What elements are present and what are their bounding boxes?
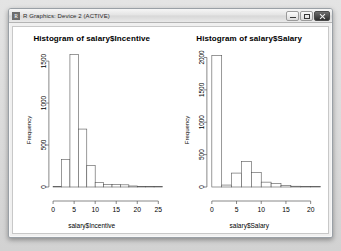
histogram-bar [70, 54, 78, 187]
y-tick-label: 500 [197, 149, 204, 160]
window-titlebar[interactable]: R R Graphics: Device 2 (ACTIVE) [9, 9, 332, 23]
maximize-button[interactable] [300, 11, 313, 21]
screen: R R Graphics: Device 2 (ACTIVE) Histogra… [0, 0, 341, 251]
histogram-bar [221, 185, 231, 187]
y-tick-label: 500 [40, 139, 47, 150]
r-logo-icon: R [12, 12, 20, 20]
histogram-bar [290, 186, 300, 187]
y-tick-label: 1000 [40, 95, 47, 110]
r-graphics-window: R R Graphics: Device 2 (ACTIVE) Histogra… [8, 8, 333, 238]
histogram-bar [112, 185, 120, 187]
x-tick-label: 10 [91, 206, 99, 213]
histogram-bar [241, 161, 251, 187]
x-axis-label: salary$Salary [171, 222, 329, 229]
plot-area: 0500100015000510152025 [13, 27, 171, 233]
histogram-bar [261, 182, 271, 187]
window-title: R Graphics: Device 2 (ACTIVE) [23, 12, 286, 20]
y-tick-label: 0 [197, 185, 204, 189]
histogram-salary: Histogram of salary$Salary Frequency 050… [171, 27, 329, 233]
histogram-bar [300, 186, 310, 187]
x-axis-label: salary$Incentive [13, 222, 171, 229]
histogram-bar [95, 182, 103, 187]
svg-text:R: R [14, 13, 18, 19]
histogram-bar [78, 129, 86, 187]
plot-area: 050010001500200005101520 [171, 27, 329, 233]
histogram-bar [281, 186, 291, 187]
histogram-bar [231, 173, 241, 187]
x-tick-label: 25 [155, 206, 163, 213]
x-tick-label: 10 [257, 206, 265, 213]
window-controls [286, 11, 330, 21]
y-tick-label: 1500 [197, 82, 204, 97]
minimize-button[interactable] [286, 11, 299, 21]
histogram-bar [53, 186, 61, 187]
histogram-bar [62, 159, 70, 187]
x-tick-label: 0 [51, 206, 55, 213]
x-tick-label: 20 [306, 206, 314, 213]
histogram-bar [310, 186, 320, 187]
x-tick-label: 5 [72, 206, 76, 213]
y-tick-label: 0 [40, 185, 47, 189]
histogram-bar [251, 172, 261, 187]
close-button[interactable] [314, 11, 330, 21]
histogram-bar [271, 183, 281, 187]
x-tick-label: 15 [112, 206, 120, 213]
plot-grid: Histogram of salary$Incentive Frequency … [13, 27, 328, 233]
histogram-bar [137, 186, 145, 187]
graphics-canvas: Histogram of salary$Incentive Frequency … [12, 26, 329, 234]
x-tick-label: 0 [209, 206, 213, 213]
histogram-bar [129, 186, 137, 187]
x-tick-label: 5 [234, 206, 238, 213]
histogram-bar [87, 166, 95, 187]
histogram-bar [120, 185, 128, 187]
histogram-incentive: Histogram of salary$Incentive Frequency … [13, 27, 171, 233]
y-tick-label: 1000 [197, 115, 204, 130]
histogram-bar [146, 186, 154, 187]
y-tick-label: 2000 [197, 50, 204, 65]
y-tick-label: 1500 [40, 54, 47, 69]
histogram-bar [211, 56, 221, 187]
histogram-bar [154, 186, 162, 187]
x-tick-label: 15 [282, 206, 290, 213]
histogram-bar [104, 184, 112, 187]
x-tick-label: 20 [134, 206, 142, 213]
